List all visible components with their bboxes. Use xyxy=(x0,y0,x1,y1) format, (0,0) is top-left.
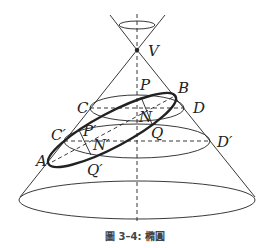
label-Q: Q xyxy=(151,126,163,141)
label-Q-prime: Q′ xyxy=(87,163,103,178)
label-D-prime: D′ xyxy=(217,135,232,150)
cone-ellipse-diagram xyxy=(0,0,270,248)
label-C-prime: C′ xyxy=(51,128,66,143)
label-A: A xyxy=(36,154,47,169)
label-N-prime: N′ xyxy=(93,138,110,153)
label-C: C xyxy=(77,101,88,116)
label-P: P xyxy=(140,78,150,93)
label-V: V xyxy=(148,44,159,59)
upper-cone-left-edge xyxy=(110,15,137,50)
cone-left-edge xyxy=(20,50,137,197)
figure-caption: 圖 3–4: 橢圓 xyxy=(0,228,270,243)
label-N: N xyxy=(139,110,152,125)
label-B: B xyxy=(178,81,189,96)
label-D: D xyxy=(193,101,205,116)
vertex-point xyxy=(135,48,139,52)
